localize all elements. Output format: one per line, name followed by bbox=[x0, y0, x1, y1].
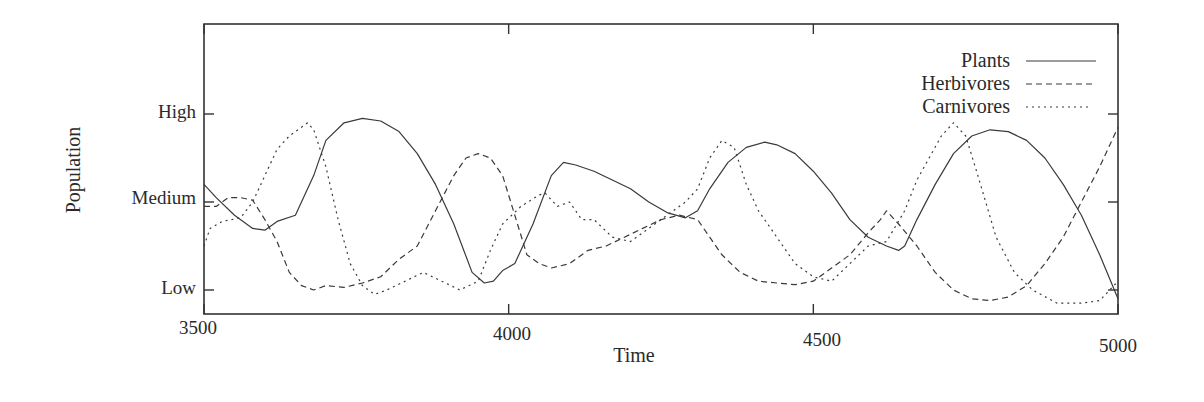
x-tick-label-3500: 3500 bbox=[179, 317, 217, 338]
y-tick-label-low: Low bbox=[161, 277, 196, 298]
legend-label-carnivores: Carnivores bbox=[922, 95, 1010, 117]
y-tick-label-high: High bbox=[158, 101, 197, 122]
x-tick-label-5000: 5000 bbox=[1099, 335, 1137, 356]
x-tick-label-4500: 4500 bbox=[803, 329, 841, 350]
legend-label-herbivores: Herbivores bbox=[921, 72, 1010, 94]
y-axis-title: Population bbox=[62, 127, 85, 214]
series-line-herbivores bbox=[204, 127, 1118, 300]
x-axis-title: Time bbox=[613, 344, 655, 366]
series-line-carnivores bbox=[204, 123, 1118, 303]
population-chart: High Medium Low 3500 4000 4500 5000 Time… bbox=[0, 0, 1204, 402]
y-tick-label-medium: Medium bbox=[132, 187, 197, 208]
x-tick-label-4000: 4000 bbox=[493, 323, 531, 344]
series-layer bbox=[204, 118, 1118, 303]
legend: Plants Herbivores Carnivores bbox=[921, 49, 1096, 117]
legend-label-plants: Plants bbox=[961, 49, 1010, 71]
series-line-plants bbox=[204, 118, 1118, 298]
